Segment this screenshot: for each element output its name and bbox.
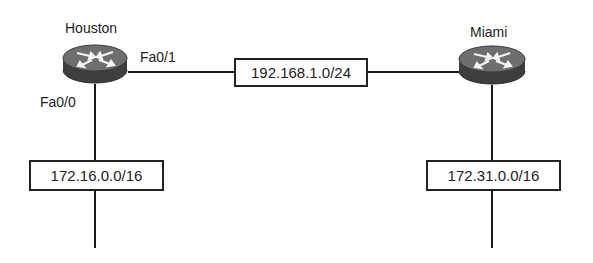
interface-label-fa00: Fa0/0 — [40, 94, 76, 110]
network-box-wan: 192.168.1.0/24 — [234, 58, 368, 87]
router-label-houston: Houston — [65, 20, 117, 36]
interface-label-fa01: Fa0/1 — [140, 49, 176, 65]
network-box-miami-lan: 172.31.0.0/16 — [426, 160, 561, 191]
router-label-miami: Miami — [470, 24, 507, 40]
network-box-houston-lan: 172.16.0.0/16 — [29, 160, 164, 191]
router-houston-icon — [63, 45, 127, 83]
router-miami-icon — [459, 46, 525, 84]
